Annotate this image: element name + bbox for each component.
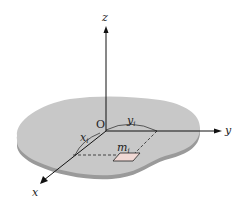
x-axis-label: x <box>32 186 39 199</box>
y-axis-arrowhead <box>214 129 222 134</box>
z-axis-label: z <box>101 11 108 24</box>
origin-label: O <box>96 118 105 131</box>
y-axis-label: y <box>224 124 232 137</box>
z-axis-arrowhead <box>104 26 109 33</box>
diagram-canvas: z y x O yi xi mi <box>0 0 242 206</box>
lamina-surface <box>17 96 200 175</box>
lamina-diagram: z y x O yi xi mi <box>0 0 242 206</box>
